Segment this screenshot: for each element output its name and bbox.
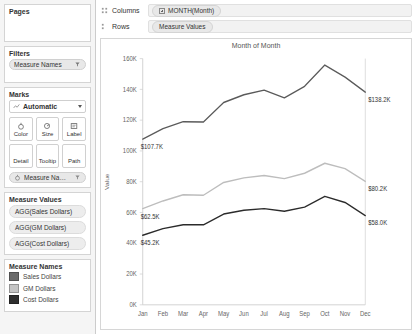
marks-path-label: Path	[68, 158, 80, 164]
label-icon	[70, 121, 78, 130]
measure-value-pill-sales[interactable]: AGG(Sales Dollars)	[9, 205, 86, 218]
marks-size-button[interactable]: Size	[36, 117, 60, 141]
measure-values-card: Measure Values AGG(Sales Dollars) AGG(GM…	[4, 192, 91, 255]
y-axis-tick-label: 20K	[126, 270, 137, 277]
x-axis-tick-label: Dec	[360, 310, 371, 317]
series-line[interactable]	[143, 65, 366, 139]
legend-swatch-sales-dollars	[9, 272, 19, 281]
y-axis-tick-label: 120K	[123, 116, 138, 123]
filters-card: Filters Measure Names	[4, 46, 91, 83]
plot-area[interactable]: 0K20K40K60K80K100K120K140K160KJanFebMarA…	[101, 52, 411, 329]
marks-color-button[interactable]: Color	[9, 117, 33, 141]
marks-path-button[interactable]: Path	[62, 144, 86, 168]
size-icon	[43, 121, 51, 130]
measure-names-legend-card: Measure Names Sales Dollars GM Dollars C…	[4, 259, 91, 312]
y-axis-tick-label: 100K	[123, 147, 138, 154]
mark-type-dropdown[interactable]: Automatic	[9, 100, 86, 113]
measure-values-list: AGG(Sales Dollars) AGG(GM Dollars) AGG(C…	[9, 205, 86, 250]
columns-pill-label: MONTH(Month)	[168, 7, 214, 14]
series-start-label: $62.5K	[141, 212, 161, 219]
marks-card: Marks Automatic Color	[4, 87, 91, 188]
tableau-worksheet: Pages Filters Measure Names Marks	[0, 0, 416, 334]
columns-shelf: Columns MONTH(Month)	[100, 4, 412, 17]
columns-pill-month[interactable]: MONTH(Month)	[152, 5, 221, 17]
mark-type-label: Automatic	[23, 103, 75, 110]
left-sidebar: Pages Filters Measure Names Marks	[0, 0, 96, 334]
shelves: Columns MONTH(Month) Rows Measure Values	[96, 0, 416, 36]
marks-label-label: Label	[67, 131, 82, 137]
plus-box-icon[interactable]	[159, 8, 165, 14]
measure-names-legend-title: Measure Names	[5, 260, 90, 272]
legend-swatch-gm-dollars	[9, 284, 19, 293]
legend-item-gm-dollars[interactable]: GM Dollars	[9, 284, 86, 293]
rows-shelf: Rows Measure Values	[100, 20, 412, 33]
rows-dropzone[interactable]: Measure Values	[148, 20, 412, 33]
marks-buttons: Color Size Label	[9, 117, 86, 168]
legend-item-cost-dollars[interactable]: Cost Dollars	[9, 295, 86, 304]
marks-detail-button[interactable]: Detail	[9, 144, 33, 168]
y-axis-tick-label: 40K	[126, 239, 137, 246]
color-icon	[17, 121, 25, 130]
series-start-label: $107.7K	[141, 143, 164, 150]
x-axis-tick-label: Apr	[199, 310, 208, 318]
rows-pill-measure-values[interactable]: Measure Values	[152, 21, 213, 33]
marks-title: Marks	[5, 88, 90, 100]
y-axis-title: Value	[103, 173, 110, 190]
filter-pill-icon	[74, 61, 81, 68]
series-line[interactable]	[143, 196, 366, 235]
marks-tooltip-button[interactable]: Tooltip	[36, 144, 60, 168]
legend-swatch-cost-dollars	[9, 295, 19, 304]
marks-label-button[interactable]: Label	[62, 117, 86, 141]
chevron-down-icon	[78, 105, 82, 108]
x-axis-tick-label: Sep	[299, 310, 310, 318]
worksheet-pane: Columns MONTH(Month) Rows Measure Values	[96, 0, 416, 334]
pages-title: Pages	[5, 5, 90, 17]
columns-dropzone[interactable]: MONTH(Month)	[148, 4, 412, 17]
rows-pill-label: Measure Values	[159, 23, 206, 30]
x-axis-tick-label: Mar	[178, 310, 188, 317]
legend-item-sales-dollars[interactable]: Sales Dollars	[9, 272, 86, 281]
x-axis-tick-label: Jul	[260, 310, 268, 317]
y-axis-tick-label: 60K	[126, 208, 137, 215]
y-axis-tick-label: 80K	[126, 178, 137, 185]
x-axis-tick-label: Nov	[340, 310, 351, 317]
filter-pill-measure-names[interactable]: Measure Names	[9, 59, 86, 70]
x-axis-tick-label: Oct	[320, 310, 329, 317]
legend-label-sales-dollars: Sales Dollars	[23, 273, 61, 280]
chart-title: Month of Month	[101, 39, 411, 50]
filters-dropzone[interactable]: Measure Names	[5, 59, 90, 82]
x-axis-tick-label: Jan	[138, 310, 148, 317]
x-axis-tick-label: May	[218, 310, 230, 318]
line-mark-icon	[13, 103, 20, 110]
measure-value-pill-cost[interactable]: AGG(Cost Dollars)	[9, 237, 86, 250]
filters-title: Filters	[5, 47, 90, 59]
x-axis-tick-label: Jun	[239, 310, 249, 317]
color-pill-icon	[14, 174, 21, 181]
measure-value-pill-gm[interactable]: AGG(GM Dollars)	[9, 221, 86, 234]
pages-dropzone[interactable]	[5, 17, 90, 39]
measure-values-title: Measure Values	[5, 193, 90, 205]
y-axis-tick-label: 0K	[129, 301, 137, 308]
y-axis-tick-label: 140K	[123, 85, 138, 92]
x-axis-tick-label: Feb	[158, 310, 169, 317]
legend-label-gm-dollars: GM Dollars	[23, 285, 56, 292]
series-start-label: $45.2K	[141, 239, 161, 246]
visualization-container: Month of Month 0K20K40K60K80K100K120K140…	[100, 38, 412, 330]
rows-grip-icon	[100, 23, 108, 31]
marks-pill-label: Measure Names	[24, 174, 71, 181]
marks-size-label: Size	[42, 131, 54, 137]
marks-color-label: Color	[14, 131, 28, 137]
series-line[interactable]	[143, 163, 366, 208]
marks-tooltip-label: Tooltip	[39, 158, 56, 164]
columns-shelf-label: Columns	[112, 7, 144, 14]
pages-card: Pages	[4, 4, 91, 42]
y-axis-tick-label: 160K	[123, 54, 138, 61]
rows-shelf-label: Rows	[112, 23, 144, 30]
marks-detail-label: Detail	[13, 158, 28, 164]
filter-pill-label: Measure Names	[14, 61, 71, 68]
x-axis-tick-label: Aug	[279, 310, 290, 318]
marks-pill-measure-names[interactable]: Measure Names	[9, 172, 86, 183]
line-chart-svg[interactable]: 0K20K40K60K80K100K120K140K160KJanFebMarA…	[101, 52, 411, 329]
series-end-label: $80.2K	[368, 185, 388, 192]
legend-label-cost-dollars: Cost Dollars	[23, 296, 58, 303]
